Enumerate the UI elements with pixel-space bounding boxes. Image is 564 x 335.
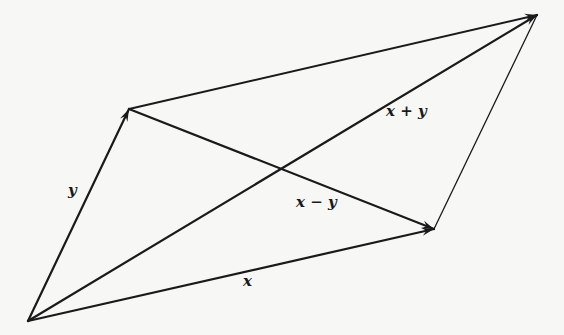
label-x: x <box>243 274 252 289</box>
parallelogram-figure <box>0 0 564 335</box>
vector-xminusy <box>129 109 434 229</box>
vector-topminusedge <box>129 14 537 109</box>
vector-xplusy <box>28 15 537 321</box>
vector-diagram: y x + y x − y x <box>0 0 564 335</box>
vector-y <box>28 109 129 321</box>
label-x-plus-y: x + y <box>386 104 427 119</box>
vector-x <box>28 228 434 321</box>
label-x-minus-y: x − y <box>296 195 337 210</box>
label-y: y <box>68 183 77 198</box>
